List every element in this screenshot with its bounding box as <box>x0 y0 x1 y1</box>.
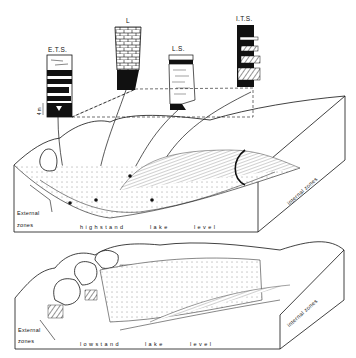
lower-block <box>15 242 344 349</box>
lower-external-label-2: zones <box>18 338 34 344</box>
column-label-l: L <box>126 17 130 24</box>
lower-bottom-word-2: lake <box>145 341 165 347</box>
scale-mark: 4 m <box>37 107 42 115</box>
column-l <box>115 27 141 90</box>
lower-external-label-1: External <box>18 327 41 333</box>
column-label-its: I.T.S. <box>236 15 253 22</box>
correlation-plane <box>72 88 253 117</box>
lake-level-block-diagrams: 4 m <box>0 0 356 358</box>
lower-bottom-word-1: lowstand <box>80 341 121 347</box>
lower-bottom-word-3: level <box>190 341 213 347</box>
column-label-ls: L.S. <box>172 45 185 52</box>
column-its <box>237 25 260 87</box>
upper-external-label-2: zones <box>17 222 33 228</box>
upper-bottom-word-2: lake <box>150 224 170 230</box>
upper-bottom-word-1: highstand <box>80 224 125 230</box>
upper-external-label-1: External <box>17 210 40 216</box>
column-label-ets: E.T.S. <box>48 46 67 53</box>
column-ets <box>43 55 72 117</box>
upper-bottom-word-3: level <box>194 224 217 230</box>
column-ls <box>169 55 195 110</box>
